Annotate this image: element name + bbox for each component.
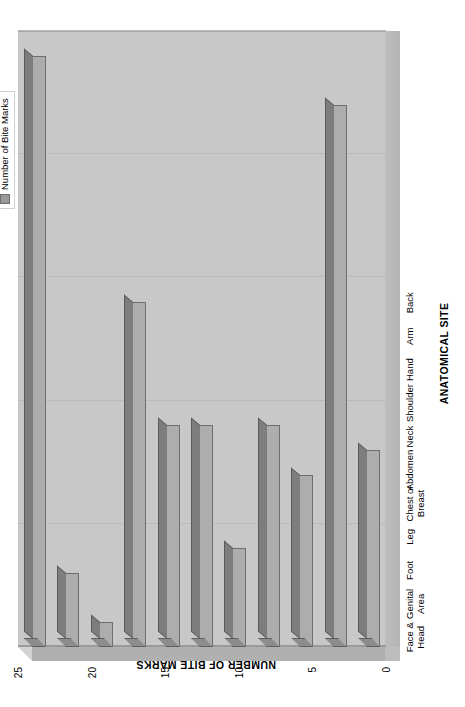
x-axis-category-label: Face & Head	[404, 610, 426, 664]
bar-front-face	[132, 302, 146, 647]
bar-top-face	[291, 467, 300, 639]
bar[interactable]	[24, 56, 46, 647]
bar-front-face	[333, 105, 347, 647]
bar-front-face	[199, 425, 213, 647]
x-axis-title: ANATOMICAL SITE	[438, 0, 450, 707]
bar-top-face	[91, 615, 100, 639]
legend-swatch-icon	[0, 194, 10, 204]
bar-front-face	[32, 56, 46, 647]
bar[interactable]	[291, 475, 313, 647]
y-axis-tick-labels: 0510152025	[0, 663, 400, 707]
bar-chart: NUMBER OF BITE MARKS 0510152025 BackArmH…	[0, 0, 465, 707]
bar-top-face	[191, 418, 200, 639]
y-axis-tick-label: 25	[13, 667, 24, 678]
bar[interactable]	[57, 573, 79, 647]
legend-label: Number of Bite Marks	[0, 98, 10, 190]
bar-top-face	[57, 566, 66, 639]
y-axis-tick-label: 10	[233, 667, 244, 678]
bar-front-face	[65, 573, 79, 647]
plot-area	[18, 31, 400, 661]
bar-front-face	[299, 475, 313, 647]
chart-legend: Number of Bite Marks	[0, 91, 15, 209]
x-axis-category-labels: BackArmHandShoulderNeckAbdomenChest or B…	[402, 31, 436, 661]
bar[interactable]	[258, 425, 280, 647]
bar-top-face	[224, 541, 233, 639]
y-axis-tick-label: 0	[381, 667, 392, 673]
bar[interactable]	[191, 425, 213, 647]
plot-corner-bevel	[18, 647, 32, 661]
bar-top-face	[124, 294, 133, 639]
bar-top-face	[258, 418, 267, 639]
chart-stage: NUMBER OF BITE MARKS 0510152025 BackArmH…	[0, 0, 465, 707]
y-axis-tick-label: 5	[307, 667, 318, 673]
bar-series	[18, 31, 386, 647]
plot-left-wall	[32, 647, 386, 661]
bar[interactable]	[358, 450, 380, 647]
bar-front-face	[266, 425, 280, 647]
bar-top-face	[24, 48, 33, 639]
y-axis-tick-label: 15	[160, 667, 171, 678]
bar-front-face	[232, 548, 246, 647]
bar-top-face	[158, 418, 167, 639]
y-axis-tick-label: 20	[86, 667, 97, 678]
bar[interactable]	[325, 105, 347, 647]
bar[interactable]	[158, 425, 180, 647]
plot-floor	[385, 31, 400, 661]
bar[interactable]	[91, 622, 113, 647]
bar[interactable]	[224, 548, 246, 647]
bar-top-face	[358, 442, 367, 639]
bar-front-face	[366, 450, 380, 647]
bar-top-face	[325, 97, 334, 639]
bar-front-face	[166, 425, 180, 647]
bar[interactable]	[124, 302, 146, 647]
